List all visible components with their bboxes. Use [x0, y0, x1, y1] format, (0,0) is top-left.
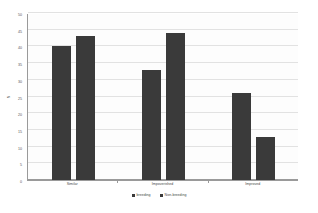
bar: [142, 70, 161, 180]
bar: [76, 36, 95, 180]
chart-legend: breedingNon-breeding: [0, 194, 318, 198]
x-axis-tick-label: Impoverished: [152, 183, 174, 187]
bars-layer: [28, 14, 298, 180]
legend-item[interactable]: Non-breeding: [160, 194, 187, 198]
bar: [232, 93, 251, 180]
x-axis-tick-mark: [117, 181, 118, 183]
legend-swatch-icon: [160, 194, 163, 197]
x-axis-tick-mark: [208, 181, 209, 183]
legend-label: Non-breeding: [165, 194, 187, 198]
x-axis-tick-label: Improved: [245, 183, 260, 187]
bar: [256, 137, 275, 180]
x-axis-tick-label: Similar: [67, 183, 78, 187]
bar: [52, 46, 71, 180]
gridline: [28, 12, 298, 13]
legend-swatch-icon: [132, 194, 135, 197]
bar: [166, 33, 185, 180]
legend-item[interactable]: breeding: [132, 194, 151, 198]
legend-label: breeding: [137, 194, 151, 198]
bar-chart: N 05101520253035404550 SimilarImpoverish…: [0, 0, 318, 213]
plot-area: [27, 14, 298, 181]
y-axis-tick-labels: 05101520253035404550: [0, 14, 25, 181]
x-axis-tick-labels: SimilarImpoverishedImproved: [27, 183, 298, 191]
